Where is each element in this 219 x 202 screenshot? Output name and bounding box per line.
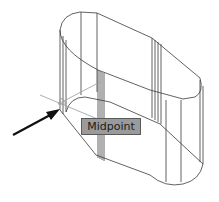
- wireframe-drawing: [0, 0, 219, 202]
- tooltip-label: Midpoint: [87, 120, 135, 133]
- arrow-icon: [13, 109, 60, 135]
- slot-solid: [60, 12, 203, 185]
- midpoint-tooltip: Midpoint: [81, 118, 141, 135]
